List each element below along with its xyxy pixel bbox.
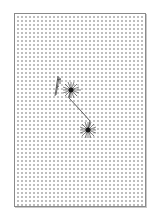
connector-edge: [69, 90, 90, 130]
pencil-sketch-icon: [55, 76, 61, 96]
starburst-node-a-icon: [63, 82, 81, 98]
figure-caption: [8, 211, 149, 217]
starburst-node-b-icon: [80, 122, 96, 138]
diagram-drawing: [0, 0, 157, 221]
